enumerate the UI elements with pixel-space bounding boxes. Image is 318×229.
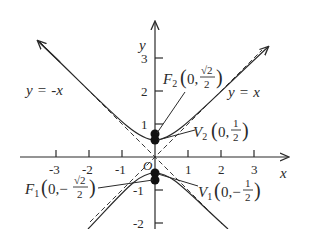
svg-text:2: 2 — [141, 84, 148, 99]
svg-text:√2: √2 — [201, 64, 213, 76]
svg-text:2: 2 — [245, 191, 251, 203]
svg-text:2: 2 — [204, 78, 210, 90]
svg-text:0,: 0, — [218, 124, 229, 140]
svg-text:0,: 0, — [187, 71, 198, 87]
svg-text:1: 1 — [141, 117, 148, 132]
svg-text:√2: √2 — [74, 174, 86, 186]
label-F1: F1 ( 0,− √2 2 ) — [24, 174, 96, 200]
svg-text:2: 2 — [77, 188, 83, 200]
svg-text:F2: F2 — [162, 71, 177, 89]
svg-text:2: 2 — [233, 131, 239, 143]
svg-text:1: 1 — [185, 162, 192, 177]
svg-text:3: 3 — [141, 51, 148, 66]
svg-text:1: 1 — [233, 117, 239, 129]
svg-text:V2: V2 — [193, 124, 207, 142]
svg-text:1: 1 — [245, 177, 251, 189]
svg-text:-1: -1 — [133, 183, 144, 198]
hyperbola-diagram: -3 -2 -1 1 2 3 3 2 1 -1 -2 O y x y=-x y=… — [0, 0, 318, 229]
svg-text:): ) — [254, 179, 261, 202]
svg-text:0,−: 0,− — [221, 184, 241, 200]
asymptote-label-neg: y=-x — [24, 82, 63, 98]
svg-text:): ) — [89, 176, 96, 199]
svg-text:(: ( — [211, 119, 218, 142]
svg-text:-2: -2 — [133, 216, 144, 229]
svg-text:-3: -3 — [49, 162, 60, 177]
svg-text:O: O — [143, 158, 153, 173]
svg-text:0,−: 0,− — [48, 181, 68, 197]
svg-text:): ) — [216, 66, 223, 89]
asymptote-label-pos: y=x — [226, 84, 260, 100]
svg-text:2: 2 — [218, 162, 225, 177]
label-V1: V1 ( 0,− 1 2 ) — [198, 177, 261, 203]
svg-text:): ) — [242, 119, 249, 142]
svg-text:(: ( — [41, 176, 48, 199]
svg-text:(: ( — [180, 66, 187, 89]
x-axis-label: x — [279, 165, 287, 181]
upper-branch-left-arrow — [38, 41, 60, 62]
svg-text:-1: -1 — [115, 162, 126, 177]
svg-text:F1: F1 — [24, 181, 39, 199]
svg-text:V1: V1 — [198, 184, 212, 202]
svg-text:(: ( — [214, 179, 221, 202]
y-axis-label: y — [137, 37, 146, 53]
svg-text:3: 3 — [251, 162, 258, 177]
label-V2: V2 ( 0, 1 2 ) — [193, 117, 249, 143]
label-F2: F2 ( 0, √2 2 ) — [162, 64, 223, 90]
